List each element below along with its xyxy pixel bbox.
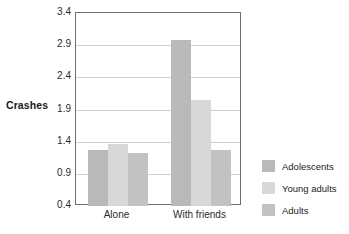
bar bbox=[191, 100, 211, 206]
y-axis-tick-label: 2.4 bbox=[46, 70, 71, 81]
legend-item-label: Young adults bbox=[282, 183, 337, 194]
chart-legend: AdolescentsYoung adultsAdults bbox=[262, 156, 347, 222]
gridline bbox=[76, 45, 240, 46]
y-axis-tick-label: 1.9 bbox=[46, 103, 71, 114]
y-axis-tick-label: 0.9 bbox=[46, 167, 71, 178]
bar bbox=[88, 150, 108, 206]
bar bbox=[171, 40, 191, 206]
legend-item-label: Adults bbox=[282, 205, 308, 216]
legend-item: Adults bbox=[262, 200, 347, 220]
y-axis-tick-label: 2.9 bbox=[46, 38, 71, 49]
y-axis-tick-label: 3.4 bbox=[46, 6, 71, 17]
gridline bbox=[76, 110, 240, 111]
x-axis-tick-label: With friends bbox=[150, 209, 250, 220]
bar-chart-figure: Crashes 0.40.91.41.92.42.93.4 AloneWith … bbox=[0, 0, 349, 234]
y-axis-title: Crashes bbox=[6, 99, 48, 111]
y-axis-tick-label: 1.4 bbox=[46, 135, 71, 146]
plot-area bbox=[75, 12, 241, 205]
bar bbox=[128, 153, 148, 206]
bar bbox=[211, 150, 231, 206]
gridline bbox=[76, 142, 240, 143]
legend-item-label: Adolescents bbox=[282, 161, 334, 172]
gridline bbox=[76, 77, 240, 78]
legend-color-swatch bbox=[262, 204, 275, 216]
legend-color-swatch bbox=[262, 160, 275, 172]
legend-item: Adolescents bbox=[262, 156, 347, 176]
legend-color-swatch bbox=[262, 182, 275, 194]
legend-item: Young adults bbox=[262, 178, 347, 198]
bar bbox=[108, 144, 128, 206]
